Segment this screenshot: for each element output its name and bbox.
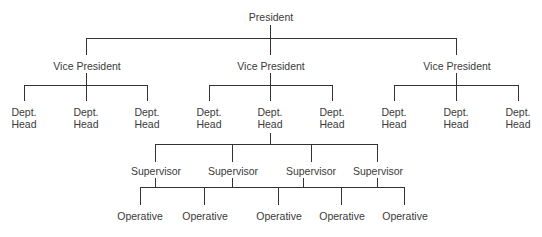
connector-operative-3 bbox=[278, 187, 279, 205]
node-operative-2: Operative bbox=[182, 210, 228, 222]
connector-dept-bar-1 bbox=[24, 85, 148, 86]
head-label: Head bbox=[319, 118, 344, 130]
node-operative-5: Operative bbox=[382, 210, 428, 222]
head-label: Head bbox=[11, 118, 36, 130]
node-dept-head-1-2: Dept.Head bbox=[73, 106, 98, 130]
connector-dept-2-1 bbox=[209, 85, 210, 101]
node-operative-4: Operative bbox=[319, 210, 365, 222]
connector-dept-1-3 bbox=[147, 85, 148, 101]
dept-label: Dept. bbox=[381, 106, 406, 118]
head-label: Head bbox=[196, 118, 221, 130]
connector-supervisor-3-up bbox=[311, 144, 312, 162]
connector-dept-1-1 bbox=[24, 85, 25, 101]
dept-label: Dept. bbox=[11, 106, 36, 118]
node-dept-head-2-2: Dept.Head bbox=[257, 106, 282, 130]
connector-supervisor-4-down bbox=[377, 178, 378, 187]
node-dept-head-3-3: Dept.Head bbox=[505, 106, 530, 130]
node-vice-president-1: Vice President bbox=[53, 60, 121, 72]
connector-vp-3-down bbox=[456, 73, 457, 101]
dept-label: Dept. bbox=[196, 106, 221, 118]
connector-supervisor-2-up bbox=[232, 144, 233, 162]
connector-vp-1-up bbox=[86, 38, 87, 55]
connector-operative-5 bbox=[404, 187, 405, 205]
node-supervisor-2: Supervisor bbox=[208, 165, 258, 177]
node-vice-president-2: Vice President bbox=[237, 60, 305, 72]
connector-vp-3-up bbox=[456, 38, 457, 55]
node-dept-head-1-1: Dept.Head bbox=[11, 106, 36, 130]
node-dept-head-2-1: Dept.Head bbox=[196, 106, 221, 130]
connector-vp-2-down bbox=[270, 73, 271, 101]
dept-label: Dept. bbox=[134, 106, 159, 118]
head-label: Head bbox=[134, 118, 159, 130]
connector-dept-3-3 bbox=[518, 85, 519, 101]
dept-label: Dept. bbox=[257, 106, 282, 118]
connector-dept-3-1 bbox=[394, 85, 395, 101]
connector-operative-1 bbox=[140, 187, 141, 205]
connector-dept-2-3 bbox=[332, 85, 333, 101]
connector-vp-1-down bbox=[86, 73, 87, 101]
connector-vp-2-up bbox=[270, 38, 271, 55]
connector-supervisor-3-down bbox=[303, 178, 304, 187]
connector-operative-bar bbox=[140, 187, 405, 188]
head-label: Head bbox=[443, 118, 468, 130]
head-label: Head bbox=[73, 118, 98, 130]
connector-dept-bar-2 bbox=[209, 85, 333, 86]
connector-supervisor-1-up bbox=[155, 144, 156, 162]
node-dept-head-2-3: Dept.Head bbox=[319, 106, 344, 130]
head-label: Head bbox=[257, 118, 282, 130]
connector-supervisor-2-down bbox=[232, 178, 233, 187]
dept-label: Dept. bbox=[505, 106, 530, 118]
connector-supervisor-bar bbox=[155, 144, 378, 145]
node-supervisor-1: Supervisor bbox=[131, 165, 181, 177]
node-dept-head-3-2: Dept.Head bbox=[443, 106, 468, 130]
connector-dept-bar-3 bbox=[394, 85, 519, 86]
head-label: Head bbox=[381, 118, 406, 130]
dept-label: Dept. bbox=[73, 106, 98, 118]
head-label: Head bbox=[505, 118, 530, 130]
org-chart: President Vice President Vice President … bbox=[0, 0, 542, 237]
dept-label: Dept. bbox=[443, 106, 468, 118]
node-supervisor-3: Supervisor bbox=[286, 165, 336, 177]
connector-vp-bar bbox=[86, 38, 457, 39]
node-operative-1: Operative bbox=[117, 210, 163, 222]
node-supervisor-4: Supervisor bbox=[353, 165, 403, 177]
node-dept-head-1-3: Dept.Head bbox=[134, 106, 159, 130]
node-president: President bbox=[249, 11, 293, 23]
connector-supervisor-4-up bbox=[377, 144, 378, 162]
connector-supervisor-1-down bbox=[155, 178, 156, 187]
dept-label: Dept. bbox=[319, 106, 344, 118]
connector-operative-2 bbox=[204, 187, 205, 205]
connector-operative-4 bbox=[341, 187, 342, 205]
connector-dept-head-down bbox=[270, 133, 271, 144]
node-vice-president-3: Vice President bbox=[423, 60, 491, 72]
connector-president-down bbox=[270, 25, 271, 38]
node-operative-3: Operative bbox=[256, 210, 302, 222]
node-dept-head-3-1: Dept.Head bbox=[381, 106, 406, 130]
